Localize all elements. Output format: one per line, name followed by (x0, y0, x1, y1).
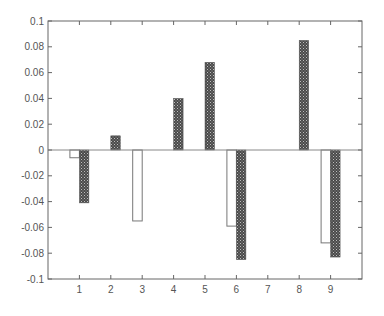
y-tick-label: 0.1 (30, 16, 44, 27)
y-tick-label: -0.06 (21, 222, 44, 233)
bar-series-2-6 (236, 150, 246, 260)
y-tick-label: -0.1 (27, 274, 45, 285)
y-tick-label: 0.08 (25, 41, 45, 52)
chart-canvas: 0.10.080.060.040.020-0.02-0.04-0.06-0.08… (0, 0, 384, 316)
bar-series-2-5 (205, 62, 215, 150)
x-tick-label: 9 (328, 284, 334, 295)
bar-series-1-6 (227, 150, 237, 226)
x-tick-label: 3 (139, 284, 145, 295)
y-tick-label: 0 (38, 145, 44, 156)
bar-series-2-9 (331, 150, 341, 257)
bar-series-2-4 (174, 98, 184, 150)
y-tick-label: -0.08 (21, 248, 44, 259)
x-tick-label: 6 (234, 284, 240, 295)
y-tick-label: 0.06 (25, 67, 45, 78)
y-tick-label: 0.02 (25, 119, 45, 130)
y-tick-label: -0.02 (21, 170, 44, 181)
bar-series-1-3 (133, 150, 143, 221)
x-tick-label: 7 (265, 284, 271, 295)
bar-series-2-1 (79, 150, 89, 203)
x-tick-label: 1 (77, 284, 83, 295)
y-tick-label: -0.04 (21, 196, 44, 207)
x-tick-label: 5 (202, 284, 208, 295)
bar-series-1-9 (321, 150, 331, 243)
x-tick-label: 2 (108, 284, 114, 295)
bar-series-2-8 (299, 40, 309, 150)
bar-chart: 0.10.080.060.040.020-0.02-0.04-0.06-0.08… (0, 0, 384, 316)
x-tick-label: 8 (296, 284, 302, 295)
y-tick-label: 0.04 (25, 93, 45, 104)
bar-series-1-1 (70, 150, 80, 158)
bar-series-2-2 (111, 136, 121, 150)
x-tick-label: 4 (171, 284, 177, 295)
